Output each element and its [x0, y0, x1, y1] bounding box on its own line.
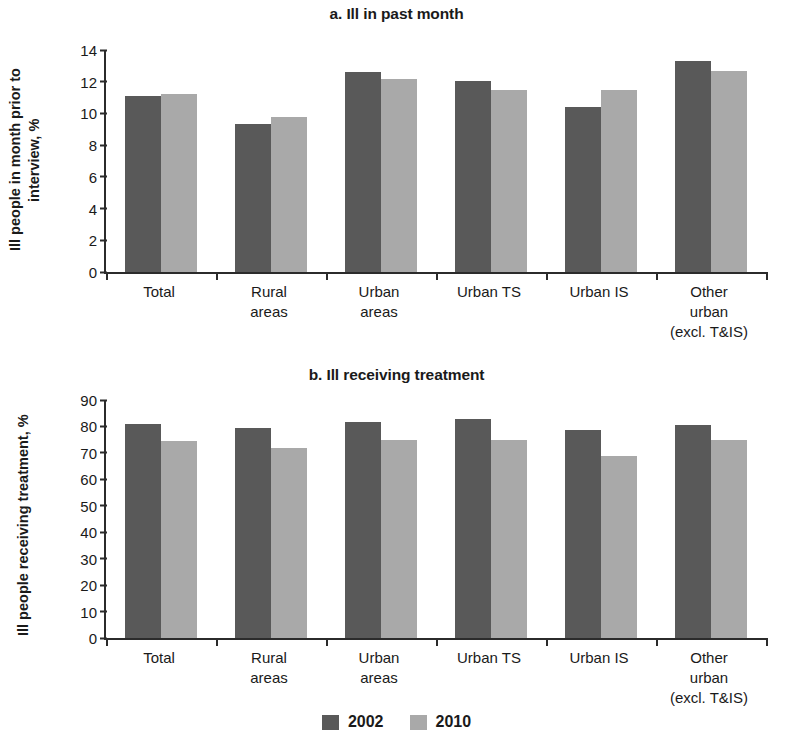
- x-axis-category-label: Urban areas: [324, 648, 434, 708]
- panel-a-y-axis-label: Ill people in month prior to interview, …: [6, 46, 43, 274]
- x-axis-category-label: Total: [104, 282, 214, 342]
- x-axis-category-label: Urban TS: [434, 282, 544, 342]
- bar-2002: [565, 430, 601, 638]
- bar-2010: [601, 90, 637, 272]
- y-tick-label: 50: [80, 498, 106, 513]
- x-tick-mark: [326, 638, 328, 646]
- y-tick-label: 20: [80, 578, 106, 593]
- y-tick-label: 8: [89, 138, 106, 153]
- x-tick-mark: [546, 638, 548, 646]
- chart-panel-a: a. Ill in past month Ill people in month…: [0, 0, 793, 362]
- bar-2010: [491, 90, 527, 272]
- y-tick-label: 40: [80, 525, 106, 540]
- bar-2002: [125, 96, 161, 272]
- bar-2010: [381, 440, 417, 638]
- x-axis-category-label: Rural areas: [214, 282, 324, 342]
- bar-2010: [161, 441, 197, 638]
- x-tick-mark: [436, 272, 438, 280]
- x-axis-category-label: Urban TS: [434, 648, 544, 708]
- x-tick-mark: [106, 638, 108, 646]
- chart-panel-b: b. Ill receiving treatment Ill people re…: [0, 348, 793, 708]
- bar-2002: [345, 422, 381, 638]
- bar-group: [436, 400, 546, 638]
- bar-2010: [381, 79, 417, 272]
- bar-2010: [271, 117, 307, 272]
- x-tick-mark: [326, 272, 328, 280]
- x-tick-mark: [766, 272, 768, 280]
- bar-group: [656, 50, 766, 272]
- legend-swatch-icon: [322, 715, 339, 730]
- y-tick-label: 30: [80, 551, 106, 566]
- bar-group: [436, 50, 546, 272]
- y-tick-label: 6: [89, 169, 106, 184]
- bar-2002: [675, 61, 711, 272]
- panel-a-bar-groups: [106, 50, 766, 272]
- x-tick-mark: [656, 638, 658, 646]
- x-tick-mark: [546, 272, 548, 280]
- x-tick-mark: [766, 638, 768, 646]
- panel-a-x-axis-labels: TotalRural areasUrban areasUrban TSUrban…: [104, 282, 764, 342]
- y-tick-label: 14: [80, 43, 106, 58]
- bar-2010: [711, 440, 747, 638]
- legend-label: 2010: [436, 714, 472, 730]
- panel-b-bar-groups: [106, 400, 766, 638]
- bar-2002: [235, 428, 271, 638]
- bar-2010: [271, 448, 307, 638]
- legend-item-2010: 2010: [410, 714, 472, 730]
- y-tick-label: 90: [80, 393, 106, 408]
- panel-a-plot-area: 02468101214: [104, 50, 766, 274]
- x-tick-mark: [216, 638, 218, 646]
- bar-group: [546, 50, 656, 272]
- bar-group: [106, 400, 216, 638]
- bar-2010: [711, 71, 747, 272]
- y-tick-label: 70: [80, 445, 106, 460]
- bar-2010: [161, 94, 197, 272]
- bar-2002: [455, 419, 491, 638]
- y-tick-label: 80: [80, 419, 106, 434]
- panel-a-title: a. Ill in past month: [0, 5, 793, 23]
- x-tick-mark: [656, 272, 658, 280]
- bar-2002: [125, 424, 161, 638]
- y-tick-label: 0: [89, 631, 106, 646]
- y-tick-label: 0: [89, 265, 106, 280]
- bar-2002: [455, 81, 491, 272]
- y-tick-label: 12: [80, 74, 106, 89]
- y-tick-label: 10: [80, 604, 106, 619]
- bar-group: [656, 400, 766, 638]
- x-axis-category-label: Other urban (excl. T&IS): [654, 282, 764, 342]
- x-axis-category-label: Total: [104, 648, 214, 708]
- bar-2010: [601, 456, 637, 638]
- bar-2010: [491, 440, 527, 638]
- x-axis-category-label: Urban areas: [324, 282, 434, 342]
- bar-2002: [345, 72, 381, 272]
- bar-2002: [675, 425, 711, 638]
- panel-b-x-axis-labels: TotalRural areasUrban areasUrban TSUrban…: [104, 648, 764, 708]
- bar-group: [106, 50, 216, 272]
- x-axis-category-label: Other urban (excl. T&IS): [654, 648, 764, 708]
- bar-group: [216, 50, 326, 272]
- panel-b-plot-area: 0102030405060708090: [104, 400, 766, 640]
- x-axis-category-label: Rural areas: [214, 648, 324, 708]
- x-tick-mark: [436, 638, 438, 646]
- y-tick-label: 4: [89, 201, 106, 216]
- bar-group: [326, 400, 436, 638]
- panel-b-y-axis-label: Ill people receiving treatment, %: [14, 390, 33, 660]
- x-tick-mark: [216, 272, 218, 280]
- bar-2002: [565, 107, 601, 272]
- x-axis-category-label: Urban IS: [544, 648, 654, 708]
- bar-2002: [235, 124, 271, 272]
- y-tick-label: 2: [89, 233, 106, 248]
- grouped-bar-chart-figure: a. Ill in past month Ill people in month…: [0, 0, 793, 744]
- legend-swatch-icon: [410, 715, 427, 730]
- legend-item-2002: 2002: [322, 714, 384, 730]
- bar-group: [216, 400, 326, 638]
- y-tick-label: 60: [80, 472, 106, 487]
- chart-legend: 20022010: [0, 714, 793, 730]
- legend-label: 2002: [348, 714, 384, 730]
- bar-group: [326, 50, 436, 272]
- y-tick-label: 10: [80, 106, 106, 121]
- x-axis-category-label: Urban IS: [544, 282, 654, 342]
- panel-b-title: b. Ill receiving treatment: [0, 366, 793, 384]
- x-tick-mark: [106, 272, 108, 280]
- bar-group: [546, 400, 656, 638]
